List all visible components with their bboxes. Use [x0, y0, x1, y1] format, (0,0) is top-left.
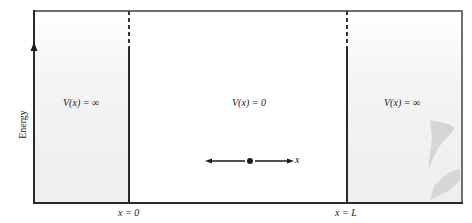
frame-right — [461, 10, 463, 204]
right-wall-potential-label: V(x) = ∞ — [384, 97, 420, 108]
energy-axis-label: Energy — [17, 110, 28, 139]
particle-motion-icon — [205, 154, 295, 168]
particle-axis-label: x — [295, 154, 299, 165]
right-boundary-solid — [346, 49, 348, 203]
left-boundary-dashed — [128, 11, 130, 49]
paper-artifact — [420, 120, 460, 200]
well-potential-label: V(x) = 0 — [232, 97, 266, 108]
energy-axis — [33, 10, 35, 204]
left-boundary-label: x = 0 — [118, 207, 139, 218]
frame-bottom — [33, 202, 463, 204]
energy-axis-arrow-icon — [30, 42, 38, 52]
frame-top — [33, 10, 463, 12]
left-wall-potential-label: V(x) = ∞ — [63, 97, 99, 108]
right-boundary-dashed — [346, 11, 348, 49]
right-boundary-label: x = L — [335, 207, 357, 218]
left-boundary-solid — [128, 49, 130, 203]
